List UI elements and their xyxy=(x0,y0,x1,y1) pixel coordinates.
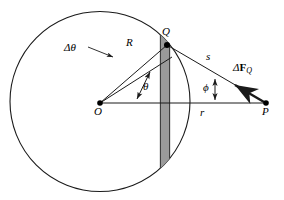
label-force-delta-F-Q: ΔFQ xyxy=(233,62,252,75)
delta-theta-pointer-arrow xyxy=(88,47,113,57)
diagram-canvas xyxy=(0,0,284,200)
label-point-O: O xyxy=(94,106,102,117)
label-delta-theta: Δθ xyxy=(64,42,76,53)
force-vector-arrow xyxy=(235,85,264,102)
label-angle-theta: θ xyxy=(143,81,148,92)
label-angle-phi: ϕ xyxy=(203,82,209,93)
force-subscript-Q: Q xyxy=(246,66,252,75)
label-point-Q: Q xyxy=(162,26,170,37)
label-segment-s: s xyxy=(206,51,210,62)
label-point-P: P xyxy=(262,106,269,117)
label-radius-R: R xyxy=(126,37,133,48)
physics-diagram: O Q P R s r θ ϕ Δθ ΔFQ xyxy=(0,0,284,200)
radius-line-OQ xyxy=(100,45,167,103)
point-Q-dot xyxy=(164,42,170,48)
label-segment-r: r xyxy=(200,107,204,118)
